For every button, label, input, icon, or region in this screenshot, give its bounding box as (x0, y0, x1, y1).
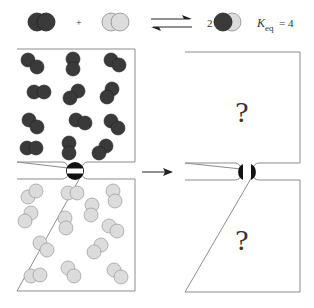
equilibrium-diagram: + 2 K eq = 4 (0, 0, 314, 308)
k-value: = 4 (279, 17, 294, 29)
plus-sign: + (76, 17, 82, 28)
closed-valve-icon (66, 162, 84, 180)
k-subscript: eq (265, 23, 274, 33)
reactant-dark-molecule (28, 13, 55, 31)
open-valve-icon (238, 164, 256, 180)
light-molecules (18, 184, 128, 284)
process-arrow-icon (142, 168, 173, 176)
coefficient: 2 (207, 17, 213, 29)
reactant-light-molecule (102, 13, 129, 31)
dark-molecules (20, 52, 126, 160)
equilibrium-arrows-icon (151, 15, 192, 31)
product-mixed-molecule (214, 13, 241, 31)
right-upper-question-mark: ? (235, 95, 248, 128)
right-lower-question-mark: ? (235, 223, 248, 256)
